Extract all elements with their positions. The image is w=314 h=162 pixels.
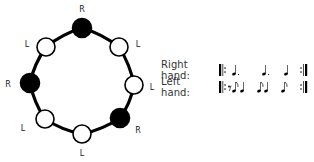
- right-hand-node-3: [111, 109, 130, 128]
- node-label: L: [21, 124, 25, 133]
- right-hand-notation: [217, 62, 314, 78]
- left-hand-node-1: [110, 38, 128, 56]
- node-label: R: [135, 126, 141, 135]
- left-hand-node-4: [73, 125, 91, 143]
- node-label: L: [80, 149, 84, 158]
- node-label: R: [5, 80, 11, 89]
- left-hand-node-2: [125, 76, 143, 94]
- hand-circle-diagram: [0, 0, 170, 162]
- left-hand-row: Left hand:: [161, 79, 211, 95]
- node-label: L: [150, 83, 154, 92]
- left-hand-notation: [217, 79, 314, 95]
- right-hand-node-0: [73, 19, 92, 38]
- node-label: R: [79, 5, 85, 14]
- left-hand-node-7: [37, 38, 55, 56]
- right-hand-node-6: [21, 74, 40, 93]
- node-label: L: [25, 40, 29, 49]
- left-hand-label: Left hand:: [161, 76, 211, 98]
- left-hand-node-5: [36, 110, 54, 128]
- node-label: L: [136, 40, 140, 49]
